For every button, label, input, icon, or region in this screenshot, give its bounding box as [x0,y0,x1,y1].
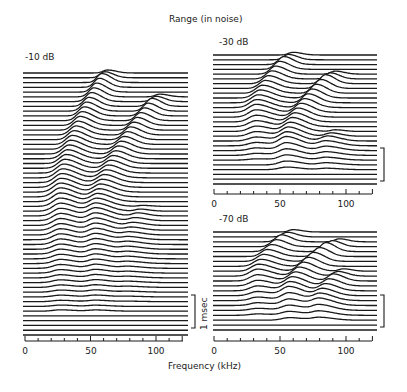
scale-bar-bracket [380,148,384,181]
tick-label-left-100: 100 [147,346,164,356]
scale-bar-bracket [191,295,195,328]
tick-label-rt-50: 50 [274,199,285,209]
tick-label-left-0: 0 [22,346,28,356]
panel-label-right-bottom: -70 dB [219,214,248,224]
tick-label-left-50: 50 [85,346,96,356]
tick-label-rb-100: 100 [337,346,354,356]
scale-bar-label: 1 msec [199,297,209,330]
scale-bar-bracket [380,295,384,327]
tick-label-rb-50: 50 [274,346,285,356]
tick-label-rt-0: 0 [211,199,217,209]
tick-label-rb-0: 0 [211,346,217,356]
panel-label-right-top: -30 dB [219,37,248,47]
panel-label-left: -10 dB [25,52,54,62]
tick-label-rt-100: 100 [337,199,354,209]
x-axis-label: Frequency (kHz) [168,361,241,371]
figure-title: Range (in noise) [169,14,242,24]
waterfall-figure [0,0,407,392]
